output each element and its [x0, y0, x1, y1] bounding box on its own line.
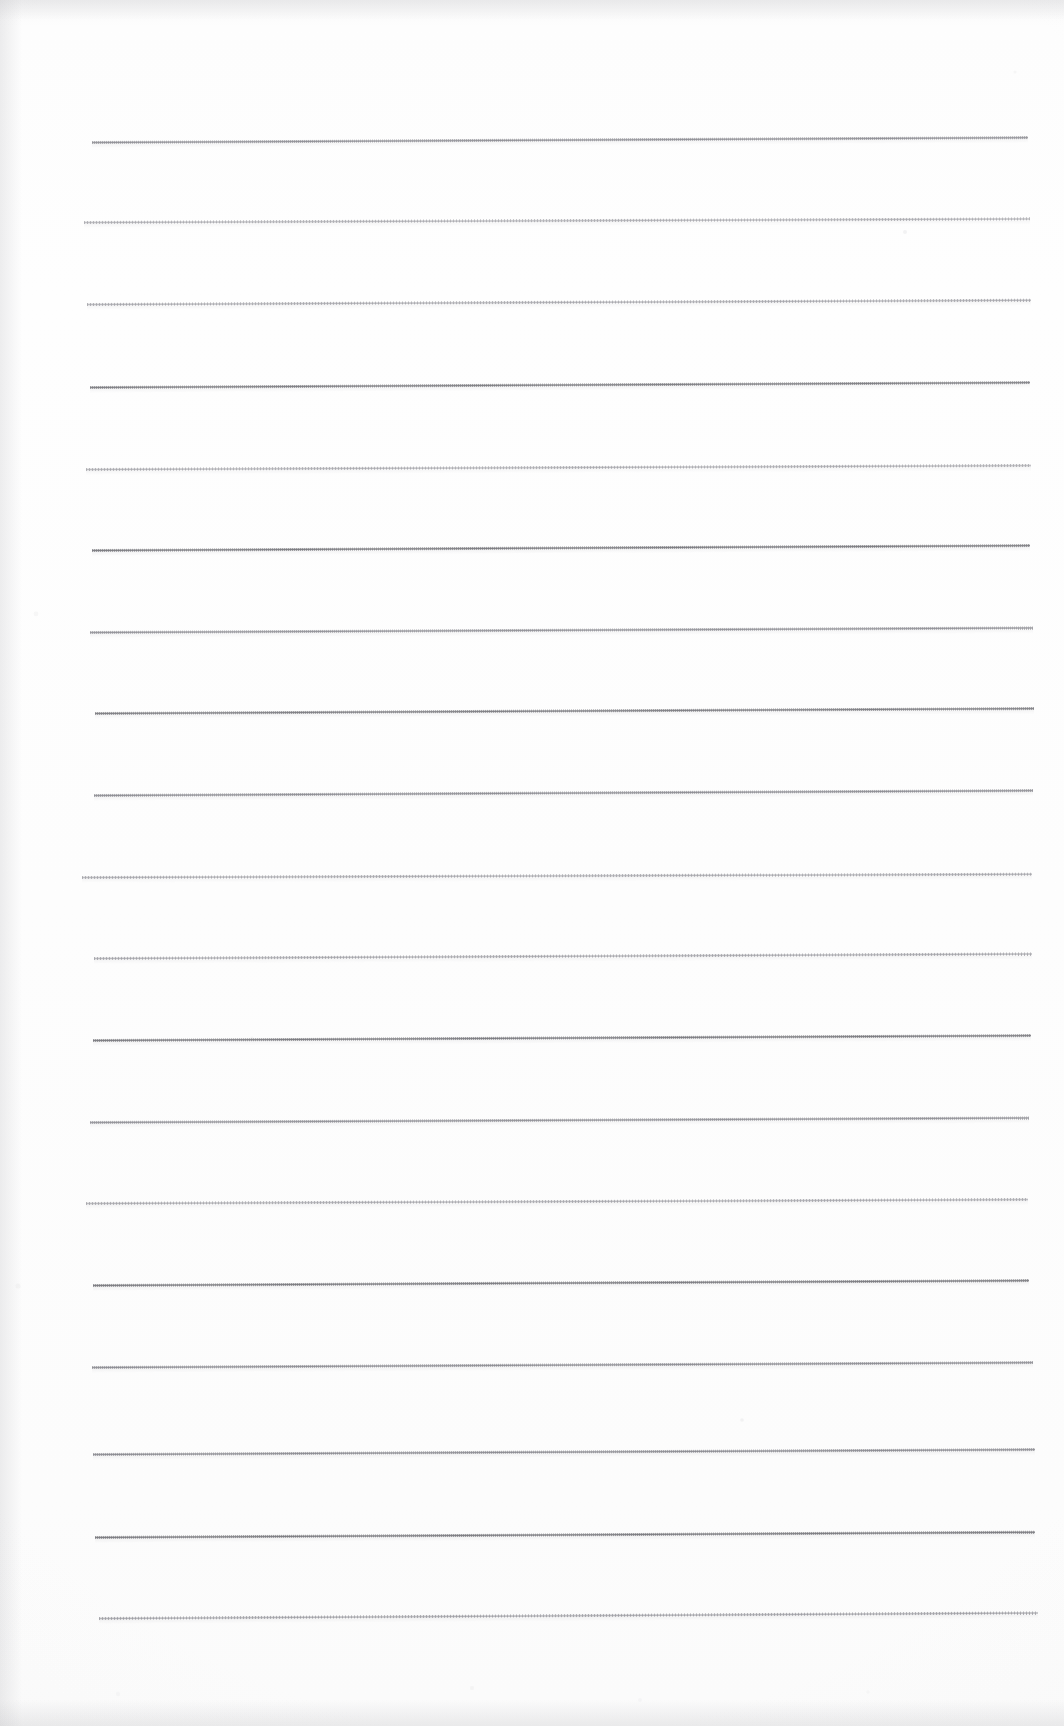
ruled-line: [99, 1611, 1038, 1620]
ruled-line: [92, 1361, 1033, 1369]
ruled-line: [94, 952, 1032, 960]
ruled-line: [86, 464, 1031, 471]
ruled-line: [86, 1198, 1028, 1205]
scanned-page: [0, 0, 1064, 1726]
ruled-line: [92, 544, 1030, 552]
ruled-line: [93, 1279, 1029, 1287]
ruled-line: [90, 381, 1030, 389]
ruled-line: [93, 1448, 1035, 1456]
ruled-line: [82, 873, 1032, 879]
ruled-line: [93, 1034, 1031, 1042]
ruled-line: [87, 299, 1031, 306]
ruled-line: [95, 707, 1034, 715]
ruled-line: [90, 1116, 1029, 1124]
ruled-line: [92, 136, 1028, 144]
ruled-line: [95, 1531, 1035, 1539]
ruled-line: [94, 789, 1033, 797]
ruled-lines-group: [0, 0, 1064, 1726]
ruled-line: [90, 626, 1033, 634]
ruled-line: [84, 217, 1030, 224]
